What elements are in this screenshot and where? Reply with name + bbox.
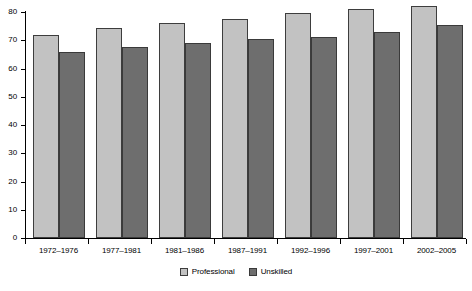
x-axis-tick	[151, 239, 152, 244]
bar-professional-4[interactable]	[285, 13, 311, 238]
bar-unskilled-4[interactable]	[311, 37, 337, 238]
x-axis-tick	[466, 239, 467, 244]
bar-professional-1[interactable]	[96, 28, 122, 238]
y-axis-tick-label: 0	[0, 234, 17, 242]
x-axis-tick	[25, 239, 26, 244]
bar-unskilled-1[interactable]	[122, 47, 148, 238]
bar-group	[33, 12, 85, 238]
bar-group	[222, 12, 274, 238]
bar-professional-3[interactable]	[222, 19, 248, 238]
bar-chart: 01020304050607080 1972–19761977–19811981…	[0, 0, 472, 291]
x-axis-tick	[88, 239, 89, 244]
bar-group	[285, 12, 337, 238]
bar-unskilled-3[interactable]	[248, 39, 274, 238]
legend-item-professional[interactable]: Professional	[180, 268, 235, 276]
bar-professional-5[interactable]	[348, 9, 374, 238]
x-axis-tick	[340, 239, 341, 244]
bar-unskilled-5[interactable]	[374, 32, 400, 238]
bar-unskilled-2[interactable]	[185, 43, 211, 238]
legend-swatch-icon	[180, 268, 188, 276]
x-axis-tick	[403, 239, 404, 244]
bar-professional-6[interactable]	[411, 6, 437, 238]
y-axis-tick-label: 60	[0, 65, 17, 73]
bar-professional-2[interactable]	[159, 23, 185, 238]
bar-unskilled-6[interactable]	[437, 25, 463, 238]
bar-professional-0[interactable]	[33, 35, 59, 238]
chart-legend: ProfessionalUnskilled	[0, 268, 472, 276]
legend-item-unskilled[interactable]: Unskilled	[249, 268, 293, 276]
y-axis-tick-label: 70	[0, 36, 17, 44]
y-axis-tick-label: 40	[0, 121, 17, 129]
y-axis-tick-label: 30	[0, 149, 17, 157]
x-axis-tick-label: 2002–2005	[394, 246, 472, 255]
bar-group	[159, 12, 211, 238]
y-axis-tick-label: 20	[0, 178, 17, 186]
plot-area	[26, 12, 466, 238]
y-axis-tick-label: 10	[0, 206, 17, 214]
legend-label: Unskilled	[261, 268, 293, 276]
bar-group	[411, 12, 463, 238]
x-axis-tick	[214, 239, 215, 244]
y-axis-tick-label: 50	[0, 93, 17, 101]
legend-label: Professional	[192, 268, 235, 276]
legend-swatch-icon	[249, 268, 257, 276]
bar-group	[348, 12, 400, 238]
x-axis-line	[25, 238, 466, 239]
x-axis-tick	[277, 239, 278, 244]
bar-unskilled-0[interactable]	[59, 52, 85, 238]
y-axis-tick-label: 80	[0, 8, 17, 16]
bar-group	[96, 12, 148, 238]
